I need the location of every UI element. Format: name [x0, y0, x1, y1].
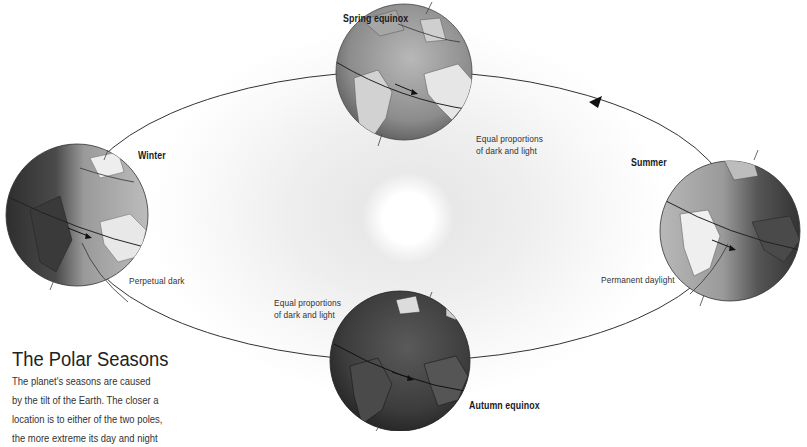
label-spring-equinox: Spring equinox: [343, 13, 408, 25]
label-summer: Summer: [631, 157, 667, 169]
note-winter: Perpetual dark: [129, 275, 185, 287]
note-summer: Permanent daylight: [601, 274, 675, 286]
label-winter: Winter: [138, 150, 166, 162]
globe-winter: [6, 144, 148, 290]
note-spring-line-1: Equal proportions: [476, 133, 543, 145]
note-autumn-line-1: Equal proportions: [274, 297, 341, 309]
description-line-4: the more extreme its day and night: [12, 429, 218, 447]
label-autumn-equinox: Autumn equinox: [469, 400, 540, 412]
description-line-3: location is to either of the two poles,: [12, 410, 218, 428]
figure-title: The Polar Seasons: [12, 347, 233, 371]
caption-block: The Polar Seasons The planet's seasons a…: [12, 347, 252, 447]
globe-autumn-equinox: [330, 291, 470, 431]
sun: [362, 172, 454, 264]
globe-summer: [660, 150, 800, 306]
note-spring-line-2: of dark and light: [476, 145, 537, 157]
description-line-1: The planet's seasons are caused: [12, 372, 218, 390]
note-autumn-line-2: of dark and light: [274, 309, 335, 321]
description-line-2: by the tilt of the Earth. The closer a: [12, 391, 218, 409]
